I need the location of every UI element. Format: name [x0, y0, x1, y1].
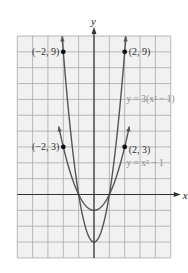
point-label: (2, 9) [129, 46, 151, 58]
chart: (−2, 9)(2, 9)(−2, 3)(2, 3) y = 3(x² − 1)… [0, 0, 188, 273]
curve-label: y = 3(x² − 1) [126, 94, 174, 105]
x-axis-label: x [182, 189, 188, 201]
data-point [61, 49, 66, 54]
y-axis-arrow-icon [92, 27, 97, 34]
y-axis-label: y [90, 15, 96, 27]
data-point [61, 145, 66, 150]
data-point [122, 49, 127, 54]
point-label: (−2, 3) [32, 141, 59, 153]
curve-label: y = x² − 1 [126, 158, 164, 168]
point-label: (2, 3) [129, 144, 151, 156]
point-label: (−2, 9) [32, 46, 59, 58]
data-point [122, 145, 127, 150]
x-axis-arrow-icon [174, 192, 181, 197]
